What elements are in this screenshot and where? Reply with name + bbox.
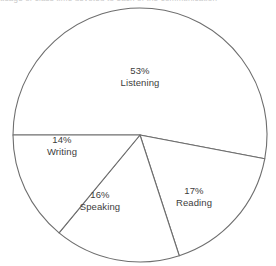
slice-category-speaking: Speaking <box>50 201 150 213</box>
slice-value-listening: 53% <box>90 65 190 77</box>
slice-value-writing: 14% <box>12 134 112 146</box>
slice-value-speaking: 16% <box>50 189 150 201</box>
pie-chart-figure: usage of class time devoted to each of t… <box>0 0 276 266</box>
slice-category-listening: Listening <box>90 77 190 89</box>
slice-label-writing: 14% Writing <box>12 134 112 157</box>
slice-label-reading: 17% Reading <box>144 185 244 208</box>
slice-category-writing: Writing <box>12 146 112 158</box>
slice-value-reading: 17% <box>144 185 244 197</box>
slice-label-speaking: 16% Speaking <box>50 189 150 212</box>
pie-chart-svg <box>0 0 276 266</box>
slice-label-listening: 53% Listening <box>90 65 190 88</box>
slice-category-reading: Reading <box>144 197 244 209</box>
